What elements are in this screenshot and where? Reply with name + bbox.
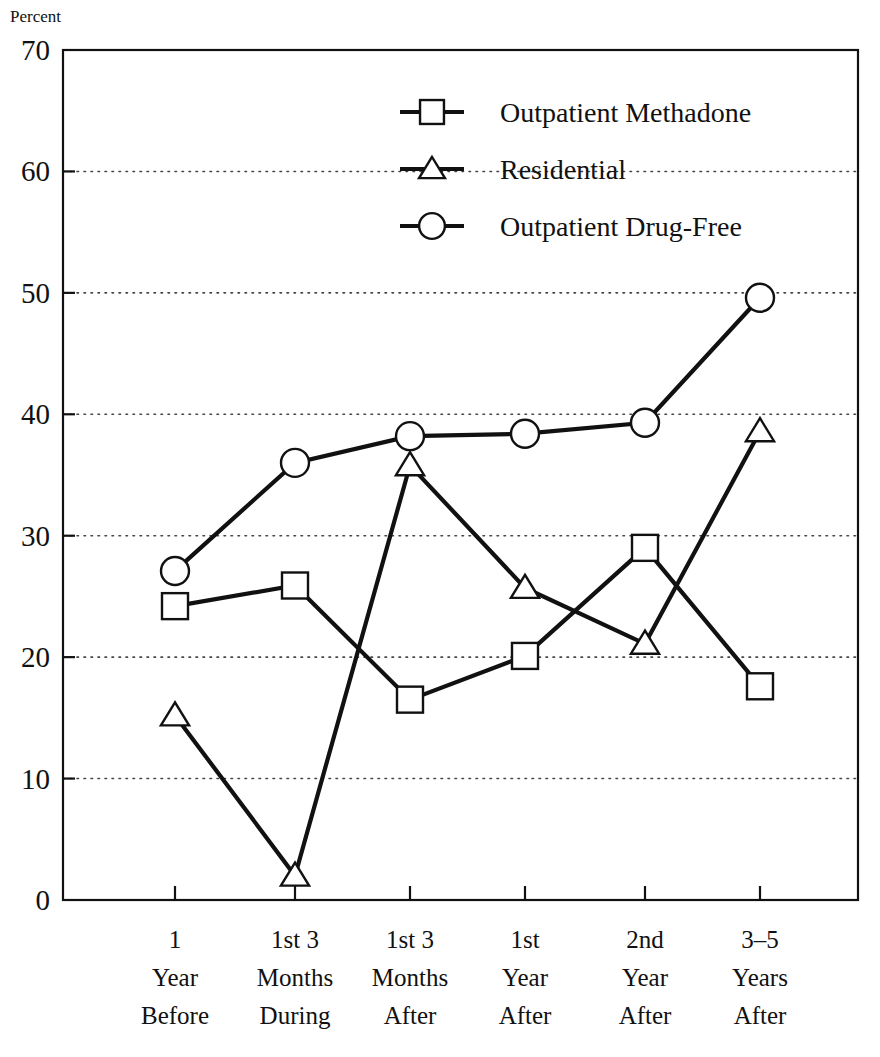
- y-tick-label: 30: [21, 520, 50, 552]
- y-tick-label: 60: [21, 155, 50, 187]
- y-tick-label: 20: [21, 641, 50, 673]
- marker-square: [420, 100, 444, 124]
- y-tick-label: 40: [21, 398, 50, 430]
- marker-circle: [746, 284, 774, 312]
- marker-circle: [396, 422, 424, 450]
- y-tick-label: 10: [21, 763, 50, 795]
- legend-label: Residential: [500, 154, 626, 185]
- y-tick-label: 50: [21, 277, 50, 309]
- marker-square: [162, 593, 188, 619]
- marker-square: [397, 687, 423, 713]
- y-tick-label: 0: [36, 884, 51, 916]
- legend-label: Outpatient Methadone: [500, 97, 751, 128]
- marker-square: [747, 673, 773, 699]
- marker-circle: [281, 449, 309, 477]
- marker-square: [282, 573, 308, 599]
- legend-label: Outpatient Drug-Free: [500, 211, 742, 242]
- line-chart: Percent 010203040506070 1YearBefore1st 3…: [0, 0, 880, 1057]
- y-axis-title: Percent: [10, 7, 61, 26]
- marker-square: [632, 535, 658, 561]
- y-tick-label: 70: [21, 34, 50, 66]
- marker-circle: [631, 409, 659, 437]
- marker-circle: [419, 213, 445, 239]
- chart-background: [0, 0, 880, 1057]
- chart-container: Percent 010203040506070 1YearBefore1st 3…: [0, 0, 880, 1057]
- marker-circle: [511, 420, 539, 448]
- marker-circle: [161, 557, 189, 585]
- marker-square: [512, 643, 538, 669]
